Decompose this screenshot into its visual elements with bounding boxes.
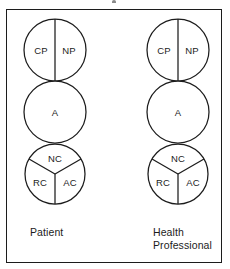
column-caption-health-professional: Health Professional (153, 226, 212, 252)
column-caption-patient: Patient (30, 226, 63, 239)
ego-state-column-health-professional: CP NP A NC RC AC Health Professional (128, 0, 228, 269)
label-critical-parent: CP (157, 46, 170, 56)
label-adapted-child: AC (63, 178, 76, 188)
label-critical-parent: CP (34, 46, 47, 56)
label-adapted-child: AC (186, 178, 199, 188)
label-nurturing-parent: NP (62, 46, 75, 56)
label-natural-child: NC (48, 154, 62, 164)
label-adult: A (52, 108, 58, 118)
label-adult: A (175, 108, 181, 118)
ego-state-column-patient: CP NP A NC RC AC Patient (5, 0, 105, 269)
label-natural-child: NC (171, 154, 185, 164)
label-rebellious-child: RC (156, 178, 170, 188)
label-rebellious-child: RC (33, 178, 47, 188)
top-edge-artifact (112, 0, 116, 3)
label-nurturing-parent: NP (185, 46, 198, 56)
ego-state-diagram: CP NP A NC RC AC Patient CP NP A NC RC A… (0, 0, 230, 269)
